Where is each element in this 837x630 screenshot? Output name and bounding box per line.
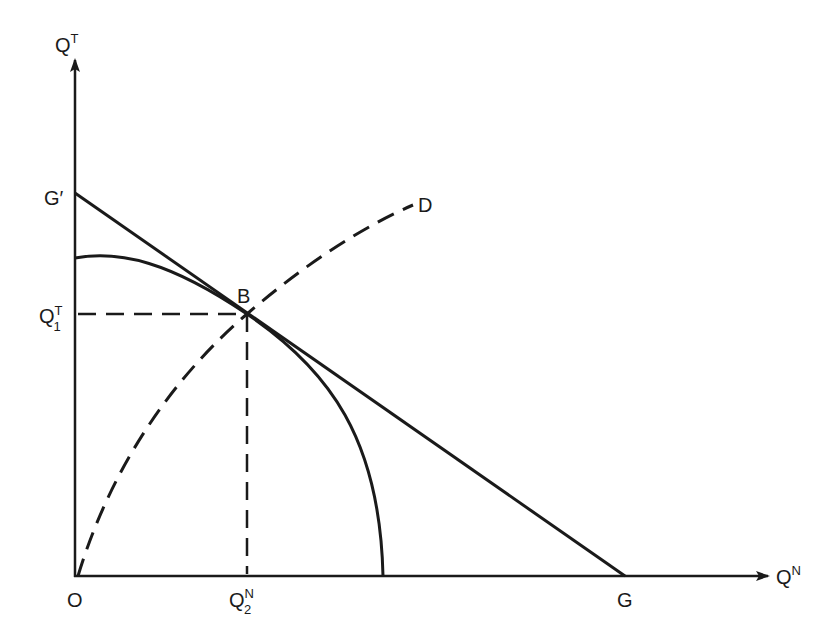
origin-label: O — [67, 589, 83, 611]
x-axis-label: QN — [776, 563, 801, 588]
point-g-prime-label: G′ — [44, 187, 64, 209]
x-tick-q2n: QN2 — [229, 586, 254, 617]
diagram-canvas: QT QN O G′ G B D QT1 QN2 — [0, 0, 837, 630]
price-line-g-prime-g — [75, 193, 625, 576]
y-tick-q1t: QT1 — [39, 303, 63, 334]
expansion-path-od — [78, 205, 413, 576]
point-d-label: D — [418, 194, 432, 216]
y-axis-label: QT — [55, 31, 79, 56]
point-b-label: B — [237, 285, 250, 307]
point-g-label: G — [617, 589, 633, 611]
production-possibility-curve — [75, 256, 383, 576]
